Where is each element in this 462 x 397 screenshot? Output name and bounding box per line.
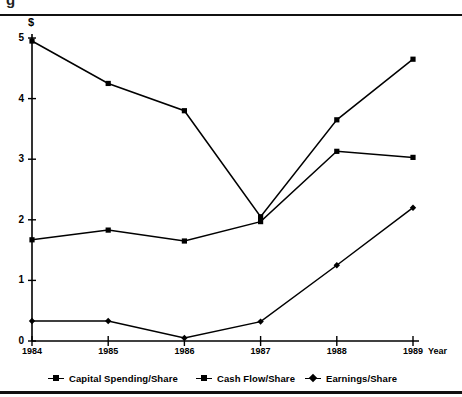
line-chart-plot bbox=[0, 0, 462, 397]
y-axis-tick-label: 2 bbox=[6, 214, 24, 225]
chart-legend: Capital Spending/ShareCash Flow/ShareEar… bbox=[0, 370, 462, 388]
legend-item[interactable]: Cash Flow/Share bbox=[196, 370, 295, 386]
x-axis-title: Year bbox=[428, 346, 447, 356]
y-axis-tick-label: 1 bbox=[6, 274, 24, 285]
x-axis-tick-label: 1986 bbox=[162, 346, 206, 356]
legend-label: Capital Spending/Share bbox=[69, 373, 178, 384]
y-axis-tick-label: 0 bbox=[6, 335, 24, 346]
legend-label: Earnings/Share bbox=[326, 373, 397, 384]
chart-figure: g $ 012345 198419851986198719881989 Year… bbox=[0, 0, 462, 397]
legend-label: Cash Flow/Share bbox=[217, 373, 295, 384]
y-axis-tick-label: 3 bbox=[6, 153, 24, 164]
legend-diamond-marker-icon bbox=[305, 373, 321, 383]
x-axis-tick-label: 1985 bbox=[86, 346, 130, 356]
legend-item[interactable]: Earnings/Share bbox=[305, 370, 397, 386]
legend-item[interactable]: Capital Spending/Share bbox=[48, 370, 178, 386]
x-axis-tick-label: 1984 bbox=[10, 346, 54, 356]
x-axis-tick-label: 1987 bbox=[239, 346, 283, 356]
legend-square-marker-icon bbox=[48, 373, 64, 383]
legend-square-marker-icon bbox=[196, 373, 212, 383]
y-axis-tick-label: 4 bbox=[6, 93, 24, 104]
x-axis-tick-label: 1988 bbox=[315, 346, 359, 356]
y-axis-tick-label: 5 bbox=[6, 32, 24, 43]
bottom-horizontal-rule bbox=[0, 391, 462, 394]
